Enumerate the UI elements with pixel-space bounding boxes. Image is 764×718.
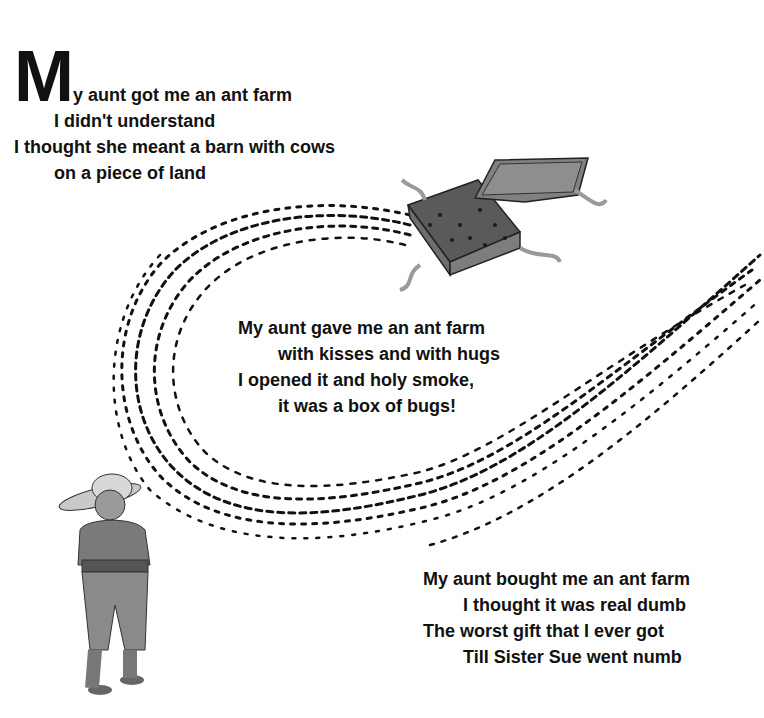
stanza-1: M y aunt got me an ant farm I didn't und… bbox=[14, 48, 335, 186]
stanza-1-line-4: on a piece of land bbox=[14, 160, 335, 186]
stanza-3-line-1: My aunt bought me an ant farm bbox=[423, 566, 690, 592]
stanza-1-line-2: I didn't understand bbox=[14, 108, 335, 134]
aunt-figure bbox=[57, 474, 150, 695]
drop-cap: M bbox=[14, 48, 72, 104]
stanza-1-line-3: I thought she meant a barn with cows bbox=[14, 134, 335, 160]
stanza-3-line-4: Till Sister Sue went numb bbox=[423, 644, 690, 670]
stanza-2-line-2: with kisses and with hugs bbox=[238, 341, 500, 367]
box-lid bbox=[475, 158, 588, 202]
stanza-2: My aunt gave me an ant farm with kisses … bbox=[238, 315, 500, 419]
stanza-3-line-3: The worst gift that I ever got bbox=[423, 618, 690, 644]
stanza-2-line-1: My aunt gave me an ant farm bbox=[238, 315, 500, 341]
stanza-2-line-3: I opened it and holy smoke, bbox=[238, 367, 500, 393]
stanza-3: My aunt bought me an ant farm I thought … bbox=[423, 566, 690, 670]
stanza-2-line-4: it was a box of bugs! bbox=[238, 393, 500, 419]
stanza-3-line-2: I thought it was real dumb bbox=[423, 592, 690, 618]
